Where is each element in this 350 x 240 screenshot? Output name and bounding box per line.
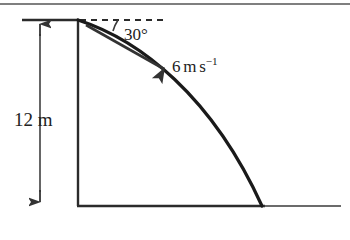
speed-label: 6ms−1	[172, 56, 218, 75]
angle-label: 30°	[124, 26, 148, 43]
speed-unit-exponent: −1	[206, 55, 218, 67]
speed-unit-second: s	[199, 57, 206, 76]
speed-unit-metre: m	[183, 57, 196, 76]
angle-arc	[113, 20, 118, 31]
speed-value: 6	[172, 57, 181, 76]
trajectory-curve	[78, 20, 262, 206]
height-label: 12 m	[14, 110, 53, 129]
